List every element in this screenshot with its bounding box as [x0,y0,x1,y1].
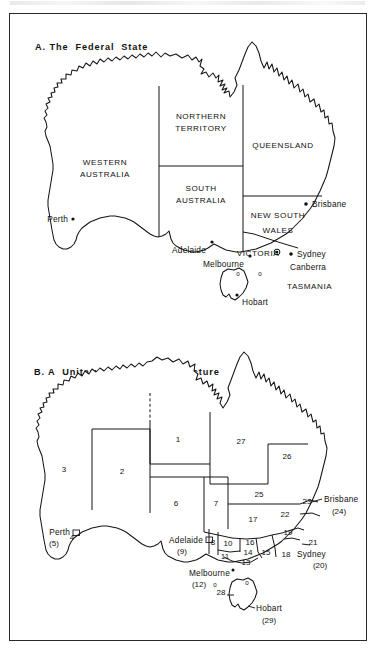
region-number-26: 26 [283,452,292,461]
region-number-3: 3 [62,465,67,474]
city-dot-melbourne-b [232,569,235,572]
region-number-21: 21 [309,538,318,547]
city-dot-brisbane-a [304,202,308,206]
region-number-2: 2 [120,467,125,476]
city-dot-melbourne-a [248,254,251,257]
state-label-new-south-wales: NEW SOUTH [251,211,305,220]
region-number-1: 1 [176,435,181,444]
region-number-14: 14 [244,548,253,557]
strait-marker-right-a: 0 [258,270,262,277]
tasmania-coastline-a [220,268,248,300]
panel-b-map-australia: 1 2 3 4 6 7 8 10 11 13 14 15 16 17 18 19… [10,314,368,644]
strait-marker-right-b: 0 [245,579,249,586]
scan-edge-artifact [10,1,365,5]
city-label-hobart-a: Hobart [242,297,269,307]
region-number-4: 4 [70,533,75,542]
city-label-adelaide-a: Adelaide [172,245,206,255]
city-label-sydney-b: Sydney [297,549,327,559]
region-number-22: 22 [281,510,290,519]
city-label-perth-a: Perth [47,214,68,224]
city-label-brisbane-a: Brisbane [312,199,347,209]
state-label-south-australia: SOUTH [185,184,216,193]
region-number-17: 17 [249,515,258,524]
city-dot-sydney-a [289,252,293,256]
state-label-south-australia-2: AUSTRALIA [176,196,226,205]
state-label-western-australia: WESTERN [83,158,127,167]
province-border-13-east [251,558,258,562]
region-number-23: 23 [303,497,312,506]
region-number-11: 11 [221,552,230,561]
city-number-hobart-b: (29) [262,616,277,625]
state-label-western-australia-2: AUSTRALIA [80,170,130,179]
city-number-adelaide-b: (9) [177,547,187,556]
tasmania-coastline-b [229,578,257,610]
city-dot-hobart-a [235,293,238,296]
city-dot-perth-a [71,217,74,220]
city-label-melbourne-b: Melbourne [189,568,230,578]
state-label-tasmania: TASMANIA [287,282,332,291]
province-border-19-18 [284,538,300,540]
region-number-16: 16 [246,538,255,547]
state-label-queensland: QUEENSLAND [252,141,313,150]
city-label-sydney-a: Sydney [297,249,327,259]
city-dot-canberra-a [276,251,279,254]
city-label-perth-b: Perth [49,527,70,537]
state-label-victoria: VICTORIA [237,249,280,258]
region-number-28: 28 [217,588,226,597]
city-label-adelaide-b: Adelaide [169,535,203,545]
city-label-melbourne-a: Melbourne [203,259,244,269]
city-number-sydney-b: (20) [313,561,328,570]
city-label-hobart-b: Hobart [256,603,283,613]
leader-hobart-b [248,606,255,608]
strait-marker-left-b: 0 [213,581,217,588]
panel-a-map-australia: WESTERN AUSTRALIA NORTHERN TERRITORY QUE… [10,14,368,314]
region-number-19: 19 [284,528,293,537]
region-number-7: 7 [214,499,219,508]
region-number-27: 27 [237,437,246,446]
city-number-perth-b: (5) [49,539,59,548]
figure-frame: A. The Federal State WESTERN AUSTRALIA N… [9,13,367,641]
city-number-melbourne-b: (12) [192,580,207,589]
city-label-brisbane-b: Brisbane [324,494,359,504]
city-label-canberra-a: Canberra [290,262,326,272]
region-number-6: 6 [174,499,179,508]
state-label-northern-territory: NORTHERN [176,112,226,121]
state-label-northern-territory-2: TERRITORY [175,124,226,133]
region-number-15: 15 [262,548,271,557]
city-number-brisbane-b: (24) [332,507,347,516]
region-number-25: 25 [255,490,264,499]
region-number-13: 13 [242,558,251,567]
strait-marker-left-a: 0 [236,270,240,277]
state-label-new-south-wales-2: WALES [263,226,294,235]
region-number-10: 10 [224,539,233,548]
region-number-18: 18 [282,550,291,559]
city-dot-adelaide-a [210,240,213,243]
